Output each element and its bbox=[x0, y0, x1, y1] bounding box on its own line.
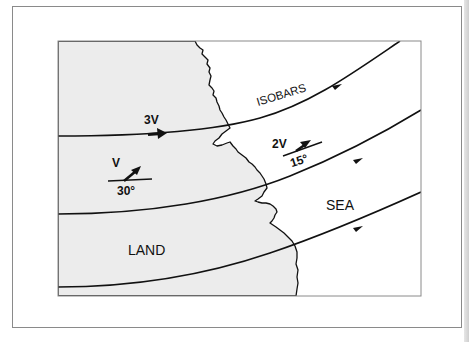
land-label: LAND bbox=[128, 242, 165, 258]
wind-speed-label-v: V bbox=[112, 156, 120, 170]
wind-angle-label-30: 30° bbox=[117, 184, 135, 198]
wind-diagram: 3V V 30° 2V 15° ISOBARS LAND SEA bbox=[0, 0, 469, 342]
wind-speed-label-2v: 2V bbox=[272, 137, 287, 151]
sea-label: SEA bbox=[326, 197, 355, 213]
wind-speed-label-3v: 3V bbox=[144, 113, 159, 127]
